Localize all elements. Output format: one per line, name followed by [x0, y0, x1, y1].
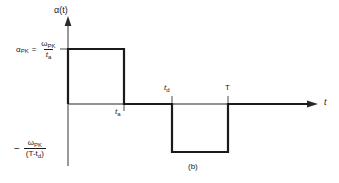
tick-label-ta: ta	[115, 108, 121, 116]
peak-value-label: αPK = ωPK ta	[16, 40, 58, 59]
peak-denominator-subscript: a	[48, 54, 51, 60]
negative-fraction-denominator: (T-td)	[24, 148, 46, 158]
tick-label-T: T	[225, 84, 230, 92]
alpha-waveform-trace	[68, 49, 310, 152]
peak-label-equals: =	[32, 46, 37, 54]
peak-value-fraction: ωPK ta	[39, 40, 57, 59]
y-axis-label: α(t)	[54, 6, 68, 15]
peak-label-lhs: αPK	[16, 46, 29, 54]
negative-value-fraction: ωPK (T-td)	[24, 139, 46, 158]
peak-label-alpha: α	[16, 45, 21, 54]
figure-container: α(t) t ta td T αPK = ωPK ta − ωPK	[0, 0, 339, 183]
negative-denominator-subscript: d	[38, 153, 41, 159]
negative-fraction-numerator: ωPK	[26, 139, 44, 148]
tick-label-ta-subscript: a	[117, 111, 120, 117]
negative-denominator-open: (T-t	[26, 149, 38, 158]
negative-denominator-close: )	[41, 149, 44, 158]
tick-label-td: td	[164, 84, 170, 92]
peak-numerator-omega: ω	[41, 39, 47, 48]
figure-caption: (b)	[188, 162, 198, 171]
x-axis-label: t	[324, 98, 327, 107]
tick-label-td-subscript: d	[166, 87, 169, 93]
peak-fraction-numerator: ωPK	[39, 40, 57, 49]
y-axis-arrowhead	[65, 16, 72, 26]
peak-numerator-subscript: PK	[48, 43, 56, 49]
negative-numerator-subscript: PK	[34, 142, 42, 148]
negative-value-label: − ωPK (T-td)	[14, 139, 46, 158]
peak-fraction-denominator: ta	[44, 49, 54, 59]
peak-label-alpha-subscript: PK	[21, 48, 29, 54]
negative-label-minus-sign: −	[14, 144, 20, 154]
